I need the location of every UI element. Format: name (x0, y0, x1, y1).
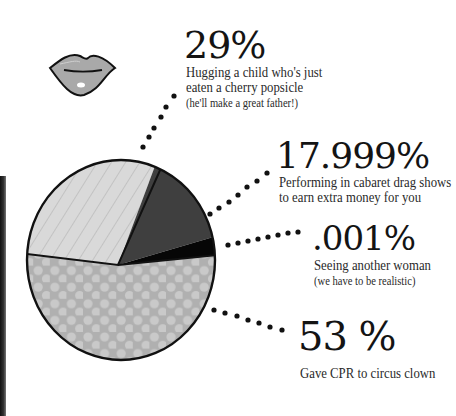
callout-0001-line1: Seeing another woman (314, 258, 431, 273)
percent-53: 53 % (298, 316, 396, 356)
pie-chart-infographic: 29% Hugging a child who's just eaten a c… (0, 0, 456, 416)
slice-53 (27, 254, 217, 370)
callout-53-line1: Gave CPR to circus clown (300, 366, 435, 381)
percent-17999: 17.999% (276, 138, 429, 174)
pie (27, 150, 217, 370)
callout-29: 29% (184, 26, 265, 64)
callout-29-line1: Hugging a child who's just (186, 65, 322, 80)
percent-29: 29% (184, 26, 265, 64)
callout-29-line2: eaten a cherry popsicle (186, 80, 303, 95)
callout-29-note: (he'll make a great father!) (186, 96, 298, 110)
callout-17999-line2: to earn extra money for you (279, 190, 421, 205)
callout-0001-note: (we have to be realistic) (314, 274, 415, 288)
percent-0001: .001% (312, 221, 415, 255)
lips-icon (50, 55, 115, 95)
callout-17999-line1: Performing in cabaret drag shows (279, 175, 451, 190)
